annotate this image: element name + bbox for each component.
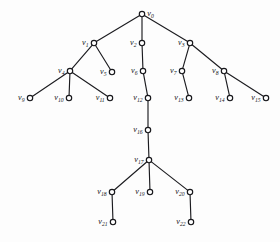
node-label-index-v21: 21 bbox=[102, 221, 108, 227]
tree-edge-v17-v18 bbox=[114, 162, 147, 190]
node-label-v11: v11 bbox=[96, 94, 105, 102]
node-label-index-v17: 17 bbox=[138, 159, 144, 165]
node-label-v21: v21 bbox=[98, 218, 107, 226]
tree-node-v3[interactable] bbox=[187, 40, 192, 45]
node-label-index-v16: 16 bbox=[137, 129, 143, 135]
tree-edge-v4-v9 bbox=[32, 73, 68, 97]
tree-edge-v4-v10 bbox=[69, 74, 70, 96]
tree-node-v7[interactable] bbox=[179, 68, 184, 73]
tree-node-v14[interactable] bbox=[227, 95, 232, 100]
node-label-v12: v12 bbox=[133, 94, 142, 102]
tree-node-v16[interactable] bbox=[145, 127, 150, 132]
node-label-v16: v16 bbox=[133, 126, 142, 134]
tree-edge-v16-v17 bbox=[148, 133, 149, 158]
node-label-v22: v22 bbox=[176, 218, 185, 226]
tree-diagram: v0v1v2v3v4v5v6v7v8v9v10v11v12v13v14v15v1… bbox=[0, 0, 280, 242]
node-label-v17: v17 bbox=[134, 156, 143, 164]
node-label-v4: v4 bbox=[58, 67, 65, 75]
node-label-index-v15: 15 bbox=[255, 97, 261, 103]
node-label-index-v4: 4 bbox=[62, 70, 65, 76]
tree-node-v19[interactable] bbox=[147, 189, 152, 194]
tree-node-v6[interactable] bbox=[140, 68, 145, 73]
node-label-index-v19: 19 bbox=[139, 191, 145, 197]
node-label-index-v9: 9 bbox=[22, 97, 25, 103]
node-label-v1: v1 bbox=[82, 39, 89, 47]
tree-node-v5[interactable] bbox=[109, 69, 114, 74]
tree-node-v0[interactable] bbox=[139, 11, 144, 16]
tree-node-v2[interactable] bbox=[139, 40, 144, 45]
node-label-v6: v6 bbox=[131, 67, 138, 75]
node-label-index-v10: 10 bbox=[58, 97, 64, 103]
tree-node-v1[interactable] bbox=[91, 40, 96, 45]
tree-node-v12[interactable] bbox=[145, 95, 150, 100]
node-label-v10: v10 bbox=[54, 94, 63, 102]
node-label-v19: v19 bbox=[135, 188, 144, 196]
tree-node-v10[interactable] bbox=[66, 95, 71, 100]
tree-node-v17[interactable] bbox=[146, 157, 151, 162]
node-label-index-v2: 2 bbox=[134, 42, 137, 48]
tree-node-v21[interactable] bbox=[110, 219, 115, 224]
node-label-index-v6: 6 bbox=[135, 70, 138, 76]
node-label-v8: v8 bbox=[212, 67, 219, 75]
node-label-v13: v13 bbox=[174, 94, 183, 102]
node-label-v0: v0 bbox=[147, 10, 154, 18]
node-label-index-v8: 8 bbox=[216, 70, 219, 76]
node-label-index-v20: 20 bbox=[179, 191, 185, 197]
tree-node-v13[interactable] bbox=[186, 95, 191, 100]
tree-edge-v20-v22 bbox=[190, 195, 191, 220]
node-label-v2: v2 bbox=[130, 39, 137, 47]
tree-node-v18[interactable] bbox=[109, 189, 114, 194]
node-label-v14: v14 bbox=[215, 94, 224, 102]
node-label-index-v12: 12 bbox=[137, 97, 143, 103]
tree-graph-canvas bbox=[0, 0, 280, 242]
tree-edge-v17-v20 bbox=[151, 162, 188, 191]
tree-edge-v3-v7 bbox=[183, 46, 190, 69]
tree-edge-v7-v13 bbox=[183, 74, 189, 96]
node-label-v15: v15 bbox=[251, 94, 260, 102]
tree-edge-v18-v21 bbox=[112, 195, 113, 220]
node-label-v20: v20 bbox=[175, 188, 184, 196]
tree-edge-v3-v8 bbox=[192, 45, 222, 70]
tree-edge-v6-v12 bbox=[143, 74, 147, 96]
node-label-index-v7: 7 bbox=[174, 70, 177, 76]
node-label-v9: v9 bbox=[18, 94, 25, 102]
node-label-index-v13: 13 bbox=[178, 97, 184, 103]
tree-node-v20[interactable] bbox=[187, 189, 192, 194]
node-label-v18: v18 bbox=[97, 188, 106, 196]
tree-node-v15[interactable] bbox=[263, 95, 268, 100]
tree-node-v22[interactable] bbox=[188, 219, 193, 224]
node-label-index-v14: 14 bbox=[219, 97, 225, 103]
node-label-index-v1: 1 bbox=[86, 42, 89, 48]
node-label-v5: v5 bbox=[100, 68, 107, 76]
tree-edge-v8-v14 bbox=[225, 74, 230, 96]
tree-node-v9[interactable] bbox=[27, 95, 32, 100]
node-label-index-v18: 18 bbox=[101, 191, 107, 197]
node-label-v3: v3 bbox=[178, 39, 185, 47]
tree-node-v4[interactable] bbox=[67, 68, 72, 73]
tree-edge-v2-v6 bbox=[142, 46, 143, 69]
node-label-index-v0: 0 bbox=[151, 13, 154, 19]
node-label-index-v11: 11 bbox=[99, 97, 104, 103]
tree-node-v11[interactable] bbox=[107, 95, 112, 100]
edge-layer bbox=[32, 15, 263, 219]
tree-edge-v17-v19 bbox=[149, 163, 150, 190]
tree-edge-v1-v4 bbox=[72, 45, 92, 69]
node-label-index-v3: 3 bbox=[182, 42, 185, 48]
tree-node-v8[interactable] bbox=[221, 68, 226, 73]
node-label-index-v22: 22 bbox=[180, 221, 186, 227]
node-label-index-v5: 5 bbox=[104, 71, 107, 77]
node-label-v7: v7 bbox=[170, 67, 177, 75]
